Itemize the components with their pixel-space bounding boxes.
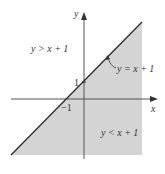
tick-label-y-1: 1	[74, 77, 79, 88]
y-axis-arrow-icon	[81, 12, 87, 20]
line-label: y = x + 1	[116, 63, 154, 74]
x-axis-arrow-icon	[150, 96, 158, 102]
inequality-graph: y x 1 −1 y > x + 1 y = x + 1 y < x + 1	[0, 0, 165, 174]
region-above-label: y > x + 1	[30, 43, 68, 54]
tick-label-x-neg1: −1	[61, 102, 72, 113]
region-below-label: y < x + 1	[100, 127, 138, 138]
x-axis-label: x	[150, 103, 156, 114]
y-axis-label: y	[73, 8, 79, 19]
